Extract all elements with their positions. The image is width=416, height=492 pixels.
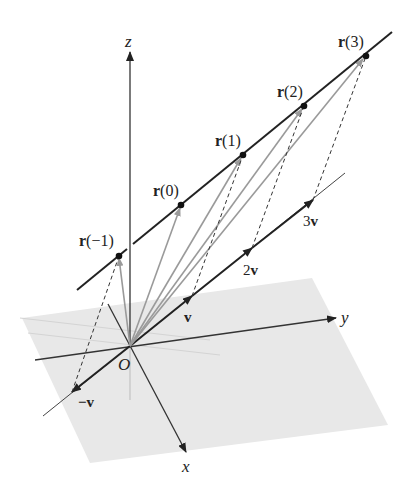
point-r-neg1 xyxy=(116,253,123,260)
label-v: v xyxy=(184,309,192,325)
label-r-neg1: r(−1) xyxy=(79,232,114,250)
point-r3 xyxy=(363,53,370,60)
dashed-guide xyxy=(313,56,366,200)
label-2v: 2v xyxy=(243,262,259,278)
label-3v: 3v xyxy=(303,213,319,229)
point-r1 xyxy=(240,152,247,159)
origin-label: O xyxy=(118,355,130,374)
x-axis-label: x xyxy=(181,457,190,476)
label-r3: r(3) xyxy=(338,33,364,51)
point-r2 xyxy=(301,103,308,110)
point-r0 xyxy=(178,202,185,209)
label-neg-v: −v xyxy=(78,394,95,410)
line-vector-diagram: z y x O r(−1) r(0) r(1) r(2) r(3) −v v 2… xyxy=(0,0,416,492)
xy-plane xyxy=(22,278,388,463)
line-r xyxy=(133,32,392,244)
y-axis-label: y xyxy=(339,308,349,327)
label-r0: r(0) xyxy=(153,182,179,200)
label-r1: r(1) xyxy=(215,132,241,150)
label-r2: r(2) xyxy=(277,83,303,101)
z-axis-label: z xyxy=(124,32,132,51)
